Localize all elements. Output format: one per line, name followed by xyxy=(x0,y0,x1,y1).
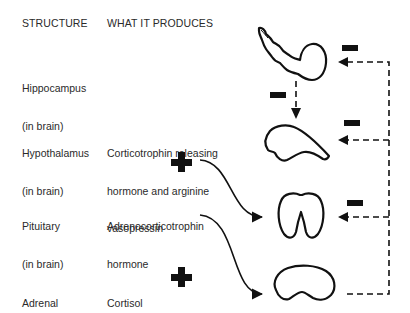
pituitary-icon xyxy=(279,193,324,237)
arrowhead-to-hypothalamus xyxy=(338,135,348,145)
arrowhead-hippocampus-to-hypothalamus xyxy=(291,108,301,119)
adrenal-icon xyxy=(275,266,335,300)
minus-icon-hippo-to-hypo xyxy=(270,92,286,98)
arrow-crh-to-pituitary xyxy=(200,160,262,217)
minus-icon-pituitary xyxy=(347,200,363,206)
hypothalamus-icon xyxy=(266,125,329,160)
arrowhead-to-hippocampus xyxy=(338,57,348,67)
arrow-acth-to-adrenal xyxy=(200,215,262,294)
minus-icon-hypothalamus xyxy=(344,120,360,126)
hippocampus-icon xyxy=(259,28,326,80)
hpa-axis-diagram xyxy=(0,0,410,313)
plus-icon-hypothalamus xyxy=(171,152,192,172)
cortisol-feedback-loop xyxy=(296,62,389,294)
plus-icon-adrenal xyxy=(171,267,192,287)
minus-icon-hippocampus xyxy=(342,45,358,51)
arrowhead-to-pituitary xyxy=(338,212,348,222)
